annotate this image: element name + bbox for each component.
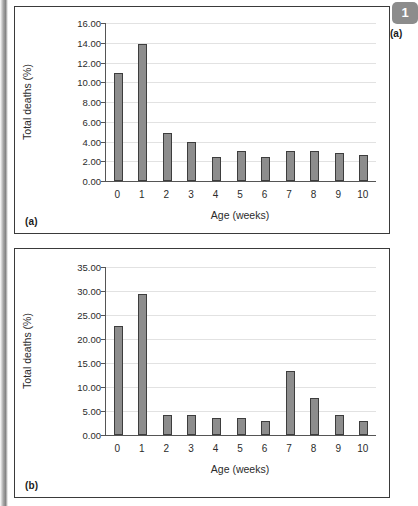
x-axis-tick-labels: 012345678910: [105, 443, 375, 454]
y-tick-label: 25.00: [77, 310, 101, 321]
bar[interactable]: [114, 326, 123, 435]
bar-slot: [180, 267, 205, 435]
bar-slot: [302, 267, 327, 435]
bar[interactable]: [286, 371, 295, 435]
bar[interactable]: [163, 133, 172, 181]
y-tick-label: 30.00: [77, 286, 101, 297]
x-axis-tick-labels: 012345678910: [105, 189, 375, 200]
y-tick-label: 14.00: [77, 37, 101, 48]
bar-chart-b: Total deaths (%)0.005.0010.0015.0020.002…: [15, 249, 389, 497]
bar-slot: [204, 23, 229, 181]
y-tick-label: 6.00: [83, 116, 102, 127]
bar-slot: [155, 23, 180, 181]
x-tick-label: 3: [179, 189, 204, 200]
bar[interactable]: [310, 151, 319, 181]
y-tick-label: 20.00: [77, 334, 101, 345]
bar-chart-a: Total deaths (%)0.002.004.006.008.0010.0…: [15, 7, 389, 233]
bar[interactable]: [310, 398, 319, 435]
bar-slot: [253, 23, 278, 181]
bar[interactable]: [286, 151, 295, 181]
bar-slot: [131, 267, 156, 435]
x-tick-label: 3: [179, 443, 204, 454]
y-axis-tick-labels: 0.002.004.006.008.0010.0012.0014.0016.00: [55, 23, 101, 181]
x-tick-label: 9: [326, 443, 351, 454]
bar-slot: [106, 267, 131, 435]
bar-slot: [204, 267, 229, 435]
bar-slot: [106, 23, 131, 181]
panel-label-a: (a): [25, 216, 38, 227]
bar-slot: [180, 23, 205, 181]
x-tick-label: 2: [154, 189, 179, 200]
figure-number-badge: 1: [392, 2, 418, 24]
bar[interactable]: [261, 157, 270, 181]
x-tick-label: 0: [105, 189, 130, 200]
bar-slot: [131, 23, 156, 181]
x-axis-label: Age (weeks): [105, 463, 375, 475]
y-tick-label: 10.00: [77, 77, 101, 88]
bar[interactable]: [212, 157, 221, 181]
plot-area: [105, 23, 376, 182]
bar[interactable]: [335, 153, 344, 181]
bar[interactable]: [261, 421, 270, 435]
bar[interactable]: [187, 142, 196, 181]
bar[interactable]: [163, 415, 172, 435]
corner-panel-caption: (a): [390, 28, 402, 39]
x-tick-label: 4: [203, 443, 228, 454]
y-tick-label: 0.00: [83, 176, 102, 187]
y-tick-label: 16.00: [77, 18, 101, 29]
y-tick-label: 10.00: [77, 382, 101, 393]
bar-slot: [351, 23, 376, 181]
y-axis-label: Total deaths (%): [21, 64, 33, 140]
x-tick-label: 1: [130, 189, 155, 200]
y-tick-label: 15.00: [77, 358, 101, 369]
bar-slot: [278, 23, 303, 181]
x-tick-label: 5: [228, 189, 253, 200]
y-tick-label: 2.00: [83, 156, 102, 167]
y-tick-label: 8.00: [83, 97, 102, 108]
x-tick-label: 7: [277, 189, 302, 200]
bar-slot: [229, 267, 254, 435]
x-tick-label: 10: [350, 443, 375, 454]
page-gutter-shadow: [0, 0, 8, 506]
bar-series: [106, 267, 376, 435]
bar-slot: [327, 23, 352, 181]
y-tick-label: 35.00: [77, 262, 101, 273]
x-tick-label: 4: [203, 189, 228, 200]
x-tick-label: 10: [350, 189, 375, 200]
bar-slot: [253, 267, 278, 435]
bar[interactable]: [237, 151, 246, 181]
x-tick-label: 1: [130, 443, 155, 454]
y-tick-label: 4.00: [83, 136, 102, 147]
x-tick-label: 8: [301, 443, 326, 454]
bar-slot: [278, 267, 303, 435]
bar[interactable]: [237, 418, 246, 435]
bar[interactable]: [138, 44, 147, 181]
y-tick-label: 0.00: [83, 430, 102, 441]
chart-panel-b: Total deaths (%)0.005.0010.0015.0020.002…: [14, 248, 390, 498]
bar[interactable]: [359, 421, 368, 435]
bar-slot: [229, 23, 254, 181]
bar-slot: [155, 267, 180, 435]
bar[interactable]: [212, 418, 221, 435]
bar[interactable]: [114, 73, 123, 181]
bar-slot: [302, 23, 327, 181]
x-tick-label: 6: [252, 189, 277, 200]
bar[interactable]: [138, 294, 147, 435]
bar[interactable]: [335, 415, 344, 435]
x-tick-label: 9: [326, 189, 351, 200]
bar[interactable]: [187, 415, 196, 435]
y-axis-label: Total deaths (%): [21, 313, 33, 389]
panel-label-b: (b): [25, 480, 38, 491]
bar[interactable]: [359, 155, 368, 181]
x-tick-label: 8: [301, 189, 326, 200]
bar-slot: [327, 267, 352, 435]
x-tick-label: 6: [252, 443, 277, 454]
x-tick-label: 7: [277, 443, 302, 454]
bar-slot: [351, 267, 376, 435]
plot-area: [105, 267, 376, 436]
y-axis-tick-labels: 0.005.0010.0015.0020.0025.0030.0035.00: [55, 267, 101, 435]
x-tick-label: 5: [228, 443, 253, 454]
y-tick-label: 5.00: [83, 406, 102, 417]
x-tick-label: 2: [154, 443, 179, 454]
bar-series: [106, 23, 376, 181]
